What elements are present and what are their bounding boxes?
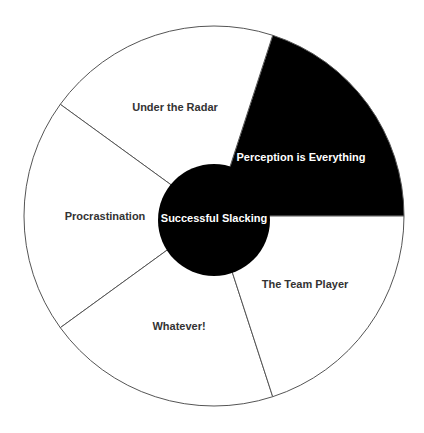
segment-label-perception-is-everything: Perception is Everything [237, 151, 366, 163]
segment-label-whatever: Whatever! [152, 320, 205, 332]
segment-label-the-team-player: The Team Player [262, 278, 349, 290]
center-label: Successful Slacking [161, 212, 267, 224]
segment-label-procrastination: Procrastination [65, 210, 146, 222]
slacking-diagram: Successful Slacking Perception is Everyt… [0, 0, 424, 433]
segment-label-under-the-radar: Under the Radar [132, 101, 218, 113]
